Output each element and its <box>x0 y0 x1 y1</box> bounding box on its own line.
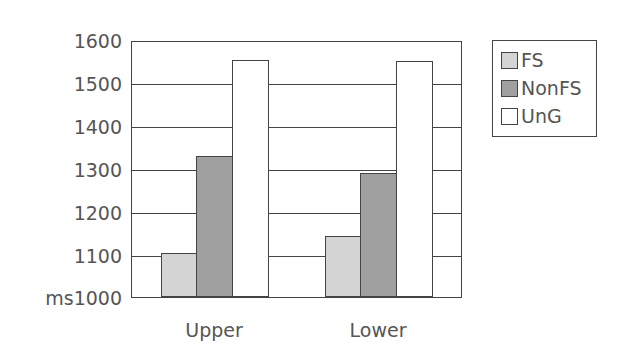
y-tick-label-1300: 1300 <box>74 160 122 180</box>
legend-swatch-fs-icon <box>501 52 518 69</box>
y-tick-label-1600: 1600 <box>74 31 122 51</box>
legend-item-ung: UnG <box>501 104 562 128</box>
bar-lower-nonfs <box>360 173 397 297</box>
y-tick-label-1100: 1100 <box>74 246 122 266</box>
bar-chart: 1600 1500 1400 1300 1200 1100 ms1000 Upp… <box>0 0 632 359</box>
x-tick-label-lower: Lower <box>318 320 438 340</box>
bar-lower-fs <box>325 236 361 297</box>
y-tick-label-1200: 1200 <box>74 203 122 223</box>
legend-item-fs: FS <box>501 48 544 72</box>
legend-item-nonfs: NonFS <box>501 76 582 100</box>
legend-swatch-nonfs-icon <box>501 80 518 97</box>
bar-lower-ung <box>396 61 433 297</box>
legend: FS NonFS UnG <box>492 40 597 137</box>
legend-label-fs: FS <box>521 49 544 71</box>
y-tick-label-1000: ms1000 <box>45 288 122 308</box>
bar-upper-nonfs <box>196 156 233 297</box>
x-tick-label-upper: Upper <box>154 320 274 340</box>
y-tick-label-1500: 1500 <box>74 74 122 94</box>
y-tick-label-1400: 1400 <box>74 117 122 137</box>
bar-upper-fs <box>161 253 197 297</box>
legend-label-ung: UnG <box>521 105 562 127</box>
plot-area <box>131 41 462 298</box>
bar-upper-ung <box>232 60 269 297</box>
legend-label-nonfs: NonFS <box>521 77 582 99</box>
legend-swatch-ung-icon <box>501 108 518 125</box>
